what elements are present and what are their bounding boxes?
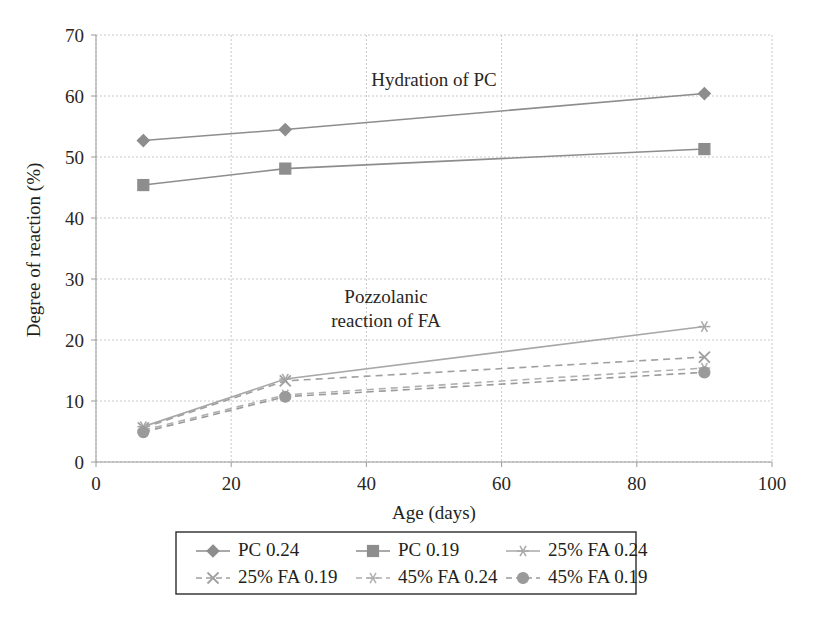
x-axis-title: Age (days) xyxy=(392,502,476,524)
line-chart: 010203040506070 020406080100 Degree of r… xyxy=(0,0,817,639)
circle-marker-icon xyxy=(518,573,529,584)
y-tick-label: 40 xyxy=(65,208,84,229)
legend-label: PC 0.24 xyxy=(238,539,300,560)
y-axis-title: Degree of reaction (%) xyxy=(23,163,45,338)
square-marker-icon xyxy=(280,163,291,174)
x-tick-label: 20 xyxy=(222,473,241,494)
x-tick-label: 0 xyxy=(91,473,101,494)
legend-label: 45% FA 0.24 xyxy=(398,566,498,587)
x-tick-label: 80 xyxy=(627,473,646,494)
square-marker-icon xyxy=(138,180,149,191)
y-tick-label: 10 xyxy=(65,391,84,412)
annotation-pozzolanic-line1: Pozzolanic xyxy=(344,286,427,307)
annotation-pozzolanic-line2: reaction of FA xyxy=(331,310,441,331)
y-tick-label: 20 xyxy=(65,330,84,351)
y-tick-label: 0 xyxy=(75,452,85,473)
x-tick-label: 40 xyxy=(357,473,376,494)
legend-label: 25% FA 0.19 xyxy=(238,566,337,587)
y-tick-label: 50 xyxy=(65,147,84,168)
circle-marker-icon xyxy=(699,367,710,378)
y-tick-label: 70 xyxy=(65,25,84,46)
x-tick-label: 100 xyxy=(758,473,787,494)
legend-label: 25% FA 0.24 xyxy=(548,539,648,560)
annotation-hydration-of-pc: Hydration of PC xyxy=(371,69,497,90)
circle-marker-icon xyxy=(280,391,291,402)
y-tick-label: 60 xyxy=(65,86,84,107)
square-marker-icon xyxy=(368,546,379,557)
chart-figure: 010203040506070 020406080100 Degree of r… xyxy=(0,0,817,639)
legend-label: 45% FA 0.19 xyxy=(548,566,647,587)
legend-label: PC 0.19 xyxy=(398,539,459,560)
square-marker-icon xyxy=(699,144,710,155)
circle-marker-icon xyxy=(138,427,149,438)
x-tick-label: 60 xyxy=(492,473,511,494)
y-tick-label: 30 xyxy=(65,269,84,290)
